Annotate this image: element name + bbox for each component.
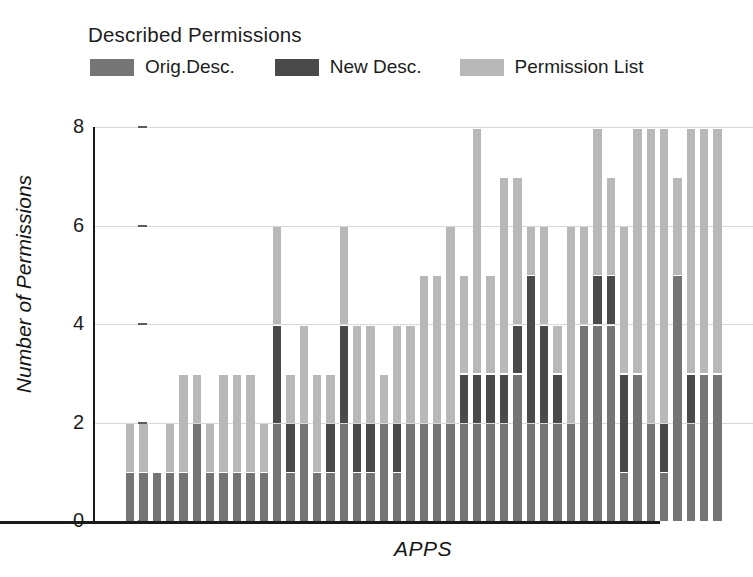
bar-segment-permission-list: [366, 326, 374, 423]
legend-label-orig-desc: Orig.Desc.: [145, 56, 235, 78]
bar-segment-orig-desc: [633, 375, 641, 521]
chart-legend: Described Permissions Orig.Desc. New Des…: [88, 22, 708, 78]
bar-segment-new-desc: [687, 375, 695, 423]
bar-column: [593, 127, 601, 521]
bar-column: [219, 373, 227, 521]
bar-column: [446, 226, 454, 522]
bar-column: [380, 373, 388, 521]
bar-segment-permission-list: [446, 227, 454, 423]
bar-segment-new-desc: [513, 326, 521, 374]
bars-group: [93, 127, 753, 521]
bar-segment-new-desc: [660, 424, 668, 472]
bar-segment-orig-desc: [647, 424, 655, 521]
bar-column: [340, 226, 348, 522]
bar-column: [433, 275, 441, 521]
bar-segment-permission-list: [500, 178, 508, 374]
bar-segment-permission-list: [273, 227, 281, 324]
bar-column: [313, 373, 321, 521]
bar-segment-orig-desc: [139, 473, 147, 521]
bar-segment-permission-list: [139, 424, 147, 472]
bar-column: [607, 176, 615, 521]
bar-segment-permission-list: [260, 424, 268, 472]
bar-column: [580, 226, 588, 522]
bar-segment-orig-desc: [366, 473, 374, 521]
bar-column: [393, 324, 401, 521]
bar-column: [700, 127, 708, 521]
bar-column: [540, 226, 548, 522]
bar-segment-new-desc: [273, 326, 281, 423]
bar-segment-orig-desc: [353, 473, 361, 521]
bar-column: [553, 324, 561, 521]
chart-container: Described Permissions Orig.Desc. New Des…: [0, 0, 753, 577]
bar-column: [500, 176, 508, 521]
bar-segment-permission-list: [687, 129, 695, 374]
bar-segment-permission-list: [620, 227, 628, 373]
bar-segment-permission-list: [527, 227, 535, 275]
bar-segment-permission-list: [233, 375, 241, 472]
bar-segment-orig-desc: [286, 473, 294, 521]
bar-column: [233, 373, 241, 521]
y-axis-title: Number of Permissions: [12, 84, 36, 484]
bar-segment-permission-list: [313, 375, 321, 472]
y-tick-label-8: 8: [58, 116, 84, 136]
bar-segment-new-desc: [553, 375, 561, 423]
bar-column: [273, 226, 281, 522]
bar-segment-permission-list: [326, 375, 334, 423]
bar-segment-permission-list: [580, 227, 588, 324]
bar-column: [406, 324, 414, 521]
bar-column: [353, 324, 361, 521]
bar-segment-permission-list: [660, 129, 668, 423]
legend-label-new-desc: New Desc.: [330, 56, 422, 78]
bar-column: [620, 226, 628, 522]
bar-column: [527, 226, 535, 522]
bar-segment-orig-desc: [460, 424, 468, 521]
bar-segment-permission-list: [286, 375, 294, 423]
bar-column: [300, 324, 308, 521]
bar-segment-permission-list: [179, 375, 187, 472]
bar-column: [193, 373, 201, 521]
bar-column: [206, 423, 214, 522]
legend-items-row: Orig.Desc. New Desc. Permission List: [88, 56, 708, 78]
bar-segment-new-desc: [340, 326, 348, 423]
bar-segment-new-desc: [366, 424, 374, 472]
bar-segment-orig-desc: [179, 473, 187, 521]
bar-column: [246, 373, 254, 521]
bar-segment-permission-list: [567, 227, 575, 423]
bar-segment-orig-desc: [193, 424, 201, 521]
bar-segment-permission-list: [513, 178, 521, 324]
bar-segment-orig-desc: [687, 424, 695, 521]
bar-segment-orig-desc: [206, 473, 214, 521]
bar-segment-orig-desc: [673, 276, 681, 521]
bar-segment-orig-desc: [713, 375, 721, 521]
bar-column: [713, 127, 721, 521]
bar-segment-orig-desc: [380, 424, 388, 521]
bar-column: [513, 176, 521, 521]
bar-segment-new-desc: [593, 276, 601, 324]
bar-segment-permission-list: [166, 424, 174, 472]
bar-segment-permission-list: [633, 129, 641, 374]
bar-segment-orig-desc: [313, 473, 321, 521]
legend-title: Described Permissions: [88, 22, 708, 48]
bar-column: [326, 373, 334, 521]
bar-segment-permission-list: [300, 326, 308, 423]
bar-segment-orig-desc: [660, 473, 668, 521]
bar-column: [139, 423, 147, 522]
bar-segment-permission-list: [473, 129, 481, 374]
bar-segment-orig-desc: [433, 424, 441, 521]
bar-segment-permission-list: [340, 227, 348, 324]
bar-segment-new-desc: [540, 326, 548, 423]
bar-segment-orig-desc: [607, 326, 615, 522]
y-tick-label-0: 0: [58, 510, 84, 530]
bar-segment-permission-list: [460, 276, 468, 373]
bar-column: [126, 423, 134, 522]
bar-segment-permission-list: [647, 129, 655, 423]
bar-column: [153, 472, 161, 521]
bar-segment-orig-desc: [567, 424, 575, 521]
legend-item-new-desc: New Desc.: [275, 56, 422, 78]
bar-segment-new-desc: [460, 375, 468, 423]
bar-column: [647, 127, 655, 521]
bar-segment-orig-desc: [219, 473, 227, 521]
y-tick-label-6: 6: [58, 215, 84, 235]
bar-segment-new-desc: [486, 375, 494, 423]
bar-column: [260, 423, 268, 522]
